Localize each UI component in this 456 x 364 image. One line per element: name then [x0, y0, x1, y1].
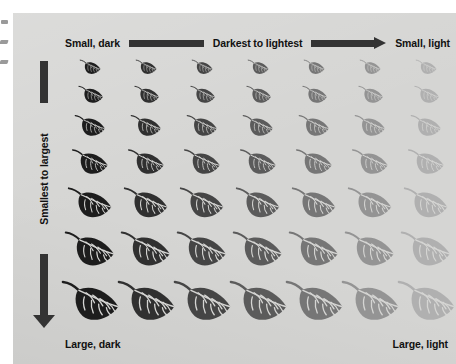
leaf-symbol [343, 114, 399, 139]
leaf-symbol [287, 114, 343, 139]
scan-mark [0, 60, 9, 64]
leaf-symbol [399, 230, 455, 270]
leaf-symbol [63, 148, 119, 177]
leaf-symbol [175, 186, 231, 222]
leaf-row [63, 230, 448, 270]
left-axis-label: Smallest to largest [38, 133, 50, 224]
leaf-symbol [231, 230, 287, 270]
leaf-symbol [343, 230, 399, 270]
scan-mark [1, 20, 8, 24]
leaf-symbol [119, 114, 175, 139]
leaf-symbol [399, 148, 455, 177]
top-axis-start-label: Small, dark [65, 37, 120, 49]
left-axis: Smallest to largest [33, 61, 55, 328]
leaf-symbol [343, 59, 399, 76]
bottom-axis-end-label: Large, light [393, 338, 448, 350]
leaf-symbol [175, 85, 231, 105]
leaf-symbol [399, 279, 455, 326]
leaf-symbol [175, 114, 231, 139]
bottom-axis-start-label: Large, dark [65, 338, 121, 350]
rule-bar-icon [129, 40, 204, 47]
leaf-symbol [63, 279, 119, 326]
leaf-symbol [231, 279, 287, 326]
leaf-row [63, 114, 448, 139]
top-axis-end-label: Small, light [395, 37, 450, 49]
leaf-symbol [399, 85, 455, 105]
leaf-symbol [287, 186, 343, 222]
rule-bar-icon [40, 61, 48, 103]
leaf-symbol [231, 148, 287, 177]
leaf-row [63, 148, 448, 177]
scan-mark [0, 40, 9, 44]
top-axis: Small, dark Darkest to lightest Small, l… [65, 34, 450, 52]
leaf-symbol [231, 114, 287, 139]
leaf-row [63, 85, 448, 105]
leaf-row [63, 186, 448, 222]
leaf-symbol [343, 85, 399, 105]
leaf-symbol [119, 186, 175, 222]
leaf-symbol [287, 59, 343, 76]
leaf-symbol [175, 279, 231, 326]
leaf-symbol [399, 59, 455, 76]
leaf-symbol [287, 85, 343, 105]
leaf-symbol [287, 230, 343, 270]
leaf-symbol [119, 59, 175, 76]
leaf-symbol [63, 59, 119, 76]
leaf-symbol [63, 230, 119, 270]
scan-artifacts [0, 18, 13, 88]
leaf-symbol [63, 85, 119, 105]
leaf-symbol [231, 59, 287, 76]
leaf-symbol [175, 148, 231, 177]
leaf-symbol [343, 279, 399, 326]
leaf-symbol [63, 186, 119, 222]
leaf-symbol [175, 59, 231, 76]
leaf-symbol [119, 148, 175, 177]
leaf-symbol [175, 230, 231, 270]
leaf-symbol [343, 186, 399, 222]
leaf-symbol [399, 114, 455, 139]
leaf-symbol [287, 148, 343, 177]
leaf-symbol [231, 85, 287, 105]
down-arrow-icon [33, 254, 55, 328]
leaf-symbol [343, 148, 399, 177]
right-arrow-icon [311, 37, 386, 50]
bottom-axis: Large, dark Large, light [65, 336, 448, 352]
leaf-symbol [63, 114, 119, 139]
leaf-symbol [231, 186, 287, 222]
leaf-row [63, 59, 448, 76]
leaf-grid [63, 59, 448, 326]
leaf-row [63, 279, 448, 326]
leaf-symbol [119, 279, 175, 326]
top-axis-middle-label: Darkest to lightest [213, 37, 303, 49]
leaf-symbol [287, 279, 343, 326]
leaf-symbol [119, 230, 175, 270]
leaf-symbol [399, 186, 455, 222]
figure-panel: Small, dark Darkest to lightest Small, l… [13, 13, 456, 364]
leaf-symbol [119, 85, 175, 105]
